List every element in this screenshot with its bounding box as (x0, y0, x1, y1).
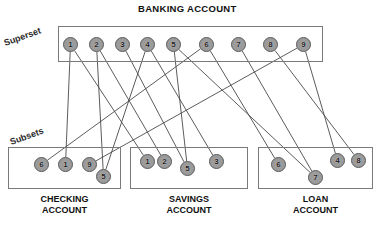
node-savings-3[interactable]: 3 (209, 154, 224, 169)
diagram-canvas: BANKING ACCOUNT Superset Subsets 1234567… (0, 0, 381, 233)
caption-line2: ACCOUNT (258, 205, 373, 216)
node-savings-1[interactable]: 1 (140, 154, 155, 169)
caption-line1: SAVINGS (130, 194, 248, 205)
node-loan-6[interactable]: 6 (271, 157, 286, 172)
node-superset-9[interactable]: 9 (296, 37, 311, 52)
edge-s9-to-c9 (96, 48, 297, 161)
node-checking-1[interactable]: 1 (58, 157, 73, 172)
caption-line1: LOAN (258, 194, 373, 205)
edge-s5-to-v5 (174, 52, 186, 161)
caption-savings: SAVINGSACCOUNT (130, 194, 248, 216)
node-loan-7[interactable]: 7 (308, 170, 323, 185)
node-superset-7[interactable]: 7 (231, 37, 246, 52)
node-loan-8[interactable]: 8 (351, 153, 366, 168)
edge-s4-to-v3 (151, 51, 212, 155)
caption-checking: CHECKINGACCOUNT (8, 194, 121, 216)
node-superset-1[interactable]: 1 (63, 37, 78, 52)
node-superset-8[interactable]: 8 (263, 37, 278, 52)
node-checking-6[interactable]: 6 (34, 157, 49, 172)
edge-s1-to-c1 (66, 52, 70, 157)
node-checking-9[interactable]: 9 (82, 157, 97, 172)
node-loan-4[interactable]: 4 (330, 153, 345, 168)
caption-line2: ACCOUNT (8, 205, 121, 216)
edge-s6-to-l6 (210, 51, 274, 158)
node-superset-2[interactable]: 2 (89, 37, 104, 52)
edge-s6-to-c6 (48, 49, 201, 160)
edge-s8-to-l8 (275, 50, 354, 154)
node-savings-2[interactable]: 2 (157, 154, 172, 169)
node-superset-6[interactable]: 6 (199, 37, 214, 52)
node-superset-3[interactable]: 3 (115, 37, 130, 52)
caption-line1: CHECKING (8, 194, 121, 205)
caption-line2: ACCOUNT (130, 205, 248, 216)
node-checking-5[interactable]: 5 (96, 169, 111, 184)
node-superset-4[interactable]: 4 (140, 37, 155, 52)
edge-s9-to-l4 (306, 52, 336, 154)
node-savings-5[interactable]: 5 (180, 161, 195, 176)
node-superset-5[interactable]: 5 (166, 37, 181, 52)
caption-loan: LOANACCOUNT (258, 194, 373, 216)
